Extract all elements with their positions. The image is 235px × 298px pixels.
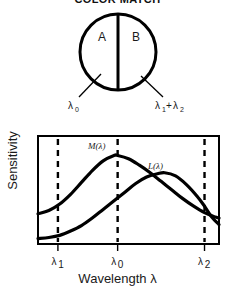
x-axis-tick-label-1: λ1 xyxy=(51,256,64,270)
right-stimulus-plus: + xyxy=(166,100,172,111)
x-tick-lambda-1: λ xyxy=(51,256,56,267)
x-axis-tick-labels: λ1λ0λ2 xyxy=(51,256,210,270)
curve-m-label-text: M(λ) xyxy=(87,141,105,151)
bipartite-field-diagram: A B λ 0 λ 1 + λ 2 xyxy=(0,0,235,125)
field-half-b-label: B xyxy=(132,30,140,44)
left-stimulus-subscript: 0 xyxy=(75,106,79,113)
right-stimulus-label: λ 1 + λ 2 xyxy=(155,100,184,113)
right-stimulus-lambda-2: λ xyxy=(173,100,178,111)
field-half-a-label: A xyxy=(98,30,106,44)
color-match-figure: COLOR MATCH A B λ 0 λ 1 + λ 2 xyxy=(0,0,235,298)
x-tick-subscript-2: 0 xyxy=(118,259,124,270)
curve-m-label: M(λ) xyxy=(87,141,105,151)
x-axis-ticks xyxy=(58,244,205,251)
curve-l-label-text: L(λ) xyxy=(147,161,163,171)
x-tick-lambda-2: λ xyxy=(111,256,116,267)
x-tick-subscript-3: 2 xyxy=(205,259,211,270)
right-stimulus-subscript-2: 2 xyxy=(180,106,184,113)
curve-l-label: L(λ) xyxy=(147,161,163,171)
right-stimulus-leader-line xyxy=(141,76,163,97)
x-axis-tick-label-3: λ2 xyxy=(198,256,211,270)
left-stimulus-lambda: λ xyxy=(68,100,73,111)
x-axis-title: Wavelength λ xyxy=(0,271,235,286)
sensitivity-plot: M(λ) L(λ) λ1λ0λ2 xyxy=(0,125,235,270)
y-axis-title: Sensitivity xyxy=(5,121,20,201)
right-stimulus-lambda-1: λ xyxy=(155,100,160,111)
x-tick-lambda-3: λ xyxy=(198,256,203,267)
x-tick-subscript-1: 1 xyxy=(58,259,64,270)
left-stimulus-label: λ 0 xyxy=(68,100,79,113)
x-axis-tick-label-2: λ0 xyxy=(111,256,124,270)
